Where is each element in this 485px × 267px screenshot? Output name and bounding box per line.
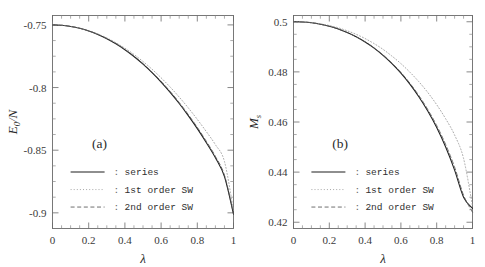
plot-panel-a: 00.20.40.60.81-0.75-0.8-0.85-0.9λE0/N(a)… bbox=[5, 16, 237, 266]
x-tick-label: 0.2 bbox=[322, 234, 336, 246]
plot-panel-b: 00.20.40.60.810.50.480.460.440.42λMs(b):… bbox=[246, 16, 476, 266]
y-axis-label-main: E bbox=[5, 126, 20, 135]
x-tick-label: 1 bbox=[470, 234, 476, 246]
y-tick-label: 0.44 bbox=[268, 166, 288, 178]
legend-label: series bbox=[365, 167, 399, 178]
legend-label: 2nd order SW bbox=[365, 202, 434, 213]
curve-dashed bbox=[294, 22, 473, 212]
curve-dotted bbox=[53, 25, 234, 210]
x-tick-label: 0.6 bbox=[394, 234, 408, 246]
curve-solid bbox=[294, 22, 473, 209]
y-tick-label: -0.75 bbox=[24, 19, 47, 31]
panel-tag: (b) bbox=[332, 136, 348, 151]
legend-separator: : bbox=[114, 167, 120, 178]
plot-frame bbox=[53, 16, 234, 229]
legend-label: 2nd order SW bbox=[125, 202, 194, 213]
y-tick-label: 0.5 bbox=[274, 16, 288, 28]
x-tick-label: 0.4 bbox=[118, 234, 132, 246]
plot-frame bbox=[294, 16, 473, 229]
y-tick-label: 0.48 bbox=[268, 66, 288, 78]
legend-separator: : bbox=[354, 185, 360, 196]
legend-label: 1st order SW bbox=[365, 185, 434, 196]
x-axis-label: λ bbox=[379, 251, 386, 266]
x-tick-label: 0 bbox=[291, 234, 297, 246]
y-tick-label: -0.9 bbox=[29, 207, 47, 219]
x-axis-label: λ bbox=[139, 251, 146, 266]
y-tick-label: -0.8 bbox=[29, 82, 47, 94]
legend-entry: :series bbox=[71, 167, 159, 178]
x-tick-label: 0.2 bbox=[82, 234, 96, 246]
legend-separator: : bbox=[114, 202, 120, 213]
x-tick-label: 0.8 bbox=[430, 234, 444, 246]
figure-container: 00.20.40.60.81-0.75-0.8-0.85-0.9λE0/N(a)… bbox=[0, 0, 485, 267]
y-tick-label: -0.85 bbox=[24, 144, 47, 156]
x-tick-label: 0 bbox=[50, 234, 56, 246]
legend-label: series bbox=[125, 167, 159, 178]
y-axis-label: Ms bbox=[246, 114, 263, 130]
x-tick-label: 0.4 bbox=[358, 234, 372, 246]
legend-entry: :1st order SW bbox=[71, 185, 194, 196]
legend-label: 1st order SW bbox=[125, 185, 194, 196]
y-axis-label: E0/N bbox=[5, 108, 22, 135]
legend-separator: : bbox=[354, 202, 360, 213]
legend-entry: :2nd order SW bbox=[71, 202, 194, 213]
legend-entry: :series bbox=[311, 167, 399, 178]
panel-tag: (a) bbox=[92, 136, 107, 151]
x-tick-label: 0.8 bbox=[190, 234, 204, 246]
y-axis-label-sub: s bbox=[253, 114, 263, 118]
y-axis-label-tail: /N bbox=[5, 108, 20, 123]
figure-svg: 00.20.40.60.81-0.75-0.8-0.85-0.9λE0/N(a)… bbox=[0, 0, 485, 267]
legend-separator: : bbox=[354, 167, 360, 178]
y-tick-label: 0.42 bbox=[268, 216, 287, 228]
legend-separator: : bbox=[114, 185, 120, 196]
x-tick-label: 1 bbox=[231, 234, 237, 246]
x-tick-label: 0.6 bbox=[154, 234, 168, 246]
legend-entry: :1st order SW bbox=[311, 185, 434, 196]
y-tick-label: 0.46 bbox=[268, 116, 288, 128]
legend-entry: :2nd order SW bbox=[311, 202, 434, 213]
